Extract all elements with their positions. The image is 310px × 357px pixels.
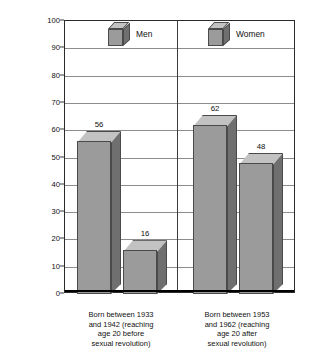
bar-front-face [193, 125, 227, 294]
category-label-line: Born between 1933 [62, 310, 180, 320]
category-label-line: and 1942 (reaching [62, 320, 180, 330]
legend-label-men: Men [136, 29, 152, 39]
bar-men-group2 [193, 115, 237, 294]
gridline [65, 103, 294, 104]
bar-women-group2 [239, 153, 283, 294]
bar-side-face [111, 131, 121, 294]
axis-baseline [65, 290, 294, 292]
cube-icon [108, 22, 130, 46]
x-axis-category-label-2: Born between 1953and 1962 (reachingage 2… [178, 310, 296, 348]
category-label-line: age 20 after [178, 329, 296, 339]
y-axis-tick-label: 90 [36, 43, 60, 52]
group-divider [177, 21, 178, 292]
cube-icon [208, 22, 230, 46]
bar-front-face [239, 163, 273, 294]
bar-value-label: 16 [119, 229, 171, 238]
y-axis-tick-label: 0 [36, 289, 60, 298]
y-axis-tick-label: 100 [36, 16, 60, 25]
legend-item-men[interactable]: Men [108, 22, 152, 46]
gridline [65, 48, 294, 49]
y-axis-tick-label: 20 [36, 234, 60, 243]
y-axis-tick-label: 60 [36, 125, 60, 134]
bar-women-group1 [123, 240, 167, 294]
bar-value-label: 62 [189, 104, 241, 113]
y-axis-tick-label: 50 [36, 152, 60, 161]
x-axis-category-label-1: Born between 1933and 1942 (reachingage 2… [62, 310, 180, 348]
y-axis-ticks: 0102030405060708090100 [34, 0, 60, 357]
category-label-line: Born between 1953 [178, 310, 296, 320]
y-axis-tick-label: 70 [36, 97, 60, 106]
y-axis-tick-label: 30 [36, 207, 60, 216]
bar-value-label: 56 [73, 120, 125, 129]
bar-side-face [273, 153, 283, 294]
gridline [65, 76, 294, 77]
legend-item-women[interactable]: Women [208, 22, 265, 46]
bar-front-face [123, 250, 157, 294]
bar-chart: Percentage Reporting Two or More Sexual … [0, 0, 310, 357]
category-label-line: and 1962 (reaching [178, 320, 296, 330]
bar-men-group1 [77, 131, 121, 294]
y-axis-tick-label: 10 [36, 261, 60, 270]
y-axis-tick-label: 40 [36, 179, 60, 188]
category-label-line: age 20 before [62, 329, 180, 339]
category-label-line: sexual revolution) [178, 339, 296, 349]
bar-value-label: 48 [235, 142, 287, 151]
category-label-line: sexual revolution) [62, 339, 180, 349]
y-axis-tick-label: 80 [36, 70, 60, 79]
plot-area: 56166248 [64, 20, 295, 293]
bar-front-face [77, 141, 111, 294]
legend-label-women: Women [236, 29, 265, 39]
